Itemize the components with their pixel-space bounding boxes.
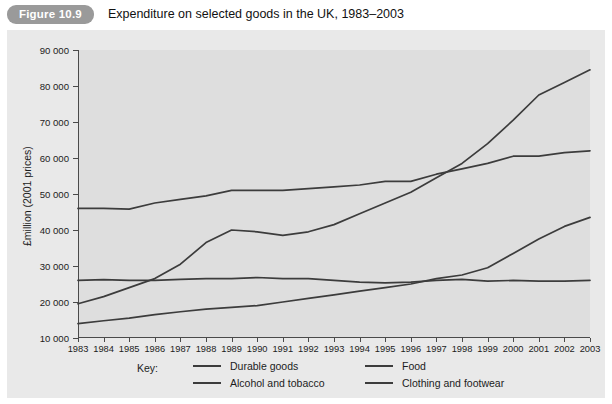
x-axis-tick-mark <box>129 338 130 342</box>
x-axis-tick-label: 1989 <box>221 344 242 354</box>
y-axis-tick-label: 30 000 <box>7 261 69 272</box>
plot-area <box>78 50 590 338</box>
x-axis-tick-mark <box>436 338 437 342</box>
series-line-food <box>78 151 590 209</box>
x-axis-tick-label: 1991 <box>272 344 293 354</box>
x-axis-tick-label: 2000 <box>503 344 524 354</box>
y-axis-tick-label: 70 000 <box>7 117 69 128</box>
x-axis-tick-label: 1994 <box>349 344 370 354</box>
legend-entry-clothing-and-footwear: Clothing and footwear <box>365 377 504 389</box>
y-axis-tick-label: 40 000 <box>7 225 69 236</box>
x-axis-tick-mark <box>462 338 463 342</box>
x-axis-tick-mark <box>334 338 335 342</box>
x-axis-tick-label: 2002 <box>554 344 575 354</box>
legend-line-swatch-durable-goods <box>193 365 221 367</box>
x-axis-tick-label: 1988 <box>196 344 217 354</box>
legend-line-swatch-food <box>365 365 393 367</box>
legend-line-swatch-alcohol-and-tobacco <box>193 382 221 384</box>
x-axis-tick-mark <box>104 338 105 342</box>
legend-label-alcohol-and-tobacco: Alcohol and tobacco <box>230 377 325 389</box>
x-axis-tick-label: 1984 <box>93 344 114 354</box>
x-axis-tick-label: 1985 <box>119 344 140 354</box>
legend-key-label: Key: <box>137 362 158 374</box>
y-axis-tick-label: 60 000 <box>7 153 69 164</box>
x-axis-tick-label: 1983 <box>68 344 89 354</box>
x-axis-tick-mark <box>488 338 489 342</box>
legend-entry-durable-goods: Durable goods <box>193 360 298 372</box>
x-axis-tick-label: 1993 <box>324 344 345 354</box>
x-axis-tick-mark <box>180 338 181 342</box>
x-axis-tick-mark <box>283 338 284 342</box>
x-axis-tick-mark <box>411 338 412 342</box>
x-axis-tick-mark <box>513 338 514 342</box>
legend-label-clothing-and-footwear: Clothing and footwear <box>402 377 504 389</box>
x-axis-tick-label: 1987 <box>170 344 191 354</box>
x-axis-tick-mark <box>206 338 207 342</box>
legend-line-swatch-clothing-and-footwear <box>365 382 393 384</box>
y-axis-tick-label: 20 000 <box>7 297 69 308</box>
y-axis-tick-label: 10 000 <box>7 333 69 344</box>
chart-legend: Key: Durable goods Food Alcohol and toba… <box>137 360 577 394</box>
series-lines <box>78 50 590 338</box>
legend-entry-alcohol-and-tobacco: Alcohol and tobacco <box>193 377 325 389</box>
legend-entry-food: Food <box>365 360 426 372</box>
y-axis-tick-label: 90 000 <box>7 45 69 56</box>
chart-panel: £million (2001 prices) 90 00080 00070 00… <box>7 30 605 398</box>
x-axis-tick-mark <box>360 338 361 342</box>
y-axis-tick-label: 50 000 <box>7 189 69 200</box>
x-axis-tick-mark <box>590 338 591 342</box>
x-axis-tick-mark <box>385 338 386 342</box>
legend-label-food: Food <box>402 360 426 372</box>
x-axis-tick-label: 2001 <box>528 344 549 354</box>
x-axis-tick-mark <box>308 338 309 342</box>
x-axis-tick-mark <box>232 338 233 342</box>
x-axis-tick-label: 1990 <box>247 344 268 354</box>
x-axis-tick-label: 2003 <box>580 344 601 354</box>
x-axis-tick-mark <box>539 338 540 342</box>
y-axis-tick-label: 80 000 <box>7 81 69 92</box>
legend-label-durable-goods: Durable goods <box>230 360 298 372</box>
series-line-clothing-and-footwear <box>78 217 590 323</box>
x-axis-tick-mark <box>78 338 79 342</box>
figure-header: Figure 10.9 Expenditure on selected good… <box>0 0 612 28</box>
x-axis-tick-label: 1986 <box>144 344 165 354</box>
x-axis-tick-label: 1995 <box>375 344 396 354</box>
x-axis-tick-label: 1996 <box>400 344 421 354</box>
figure-title: Expenditure on selected goods in the UK,… <box>108 7 404 21</box>
x-axis-tick-mark <box>257 338 258 342</box>
figure-number-badge: Figure 10.9 <box>7 5 94 24</box>
x-axis-tick-label: 1992 <box>298 344 319 354</box>
x-axis-tick-label: 1999 <box>477 344 498 354</box>
x-axis-tick-mark <box>155 338 156 342</box>
x-axis-tick-label: 1997 <box>426 344 447 354</box>
x-axis-tick-label: 1998 <box>452 344 473 354</box>
x-axis-tick-mark <box>564 338 565 342</box>
